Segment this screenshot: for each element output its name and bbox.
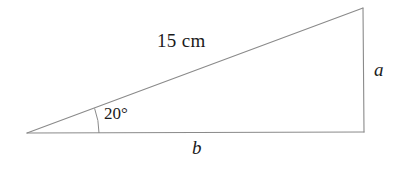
hypotenuse-line: [27, 8, 363, 133]
base-side-line: [27, 132, 364, 133]
hypotenuse-label: 15 cm: [157, 31, 205, 50]
vertical-side-line: [363, 8, 364, 132]
angle-label: 20°: [104, 105, 128, 122]
angle-arc: [95, 108, 99, 133]
side-b-label: b: [192, 138, 202, 157]
side-a-label: a: [374, 60, 384, 79]
geometry-figure: 15 cm 20° a b: [0, 0, 402, 174]
